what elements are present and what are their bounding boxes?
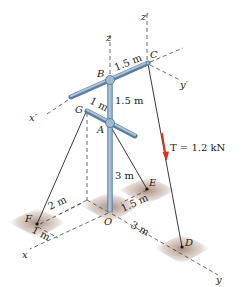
label-point-O: O <box>104 216 112 227</box>
label-point-G: G <box>75 104 83 115</box>
label-point-B: B <box>96 68 104 79</box>
pole-cable-diagram: z z′ y′ x′ x y B C G A E F O D 1.5 m 1.5… <box>0 0 250 287</box>
shadow-D <box>154 234 210 264</box>
label-point-E: E <box>148 177 157 188</box>
joint-A <box>106 119 115 128</box>
y-prime-axis <box>150 65 180 80</box>
label-point-F: F <box>24 213 33 224</box>
dim-AB: 1.5 m <box>115 95 144 106</box>
label-y: y <box>215 274 222 285</box>
force-label: T = 1.2 kN <box>170 142 226 153</box>
anchor-D <box>180 245 183 248</box>
vertical-pole <box>108 78 113 212</box>
label-y-prime: y′ <box>179 79 189 90</box>
label-point-C: C <box>150 49 158 60</box>
cable-GF <box>37 112 86 224</box>
label-x-prime: x′ <box>29 112 38 123</box>
label-point-D: D <box>184 237 193 248</box>
label-z: z <box>105 32 112 43</box>
dim-OD: 3 m <box>129 219 151 238</box>
x-prime-axis <box>47 100 68 114</box>
label-point-A: A <box>96 124 104 135</box>
dim-OA: 3 m <box>115 170 135 181</box>
joint-C <box>146 61 150 65</box>
label-x: x <box>22 249 28 260</box>
joint-B <box>106 76 115 85</box>
label-z-prime: z′ <box>140 11 149 22</box>
